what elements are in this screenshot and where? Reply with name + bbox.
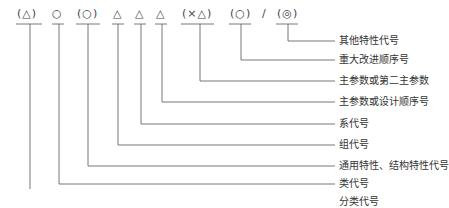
label-feature-code: 通用特性、结构特性代号 [339, 160, 449, 172]
symbol-class: ○ [52, 7, 63, 20]
symbol-group: △ [113, 7, 122, 20]
label-series-code: 系代号 [339, 118, 369, 130]
symbol-main-param: △ [156, 7, 165, 20]
symbol-classification: (△) [17, 7, 37, 20]
label-main-param-design: 主参数或设计顺序号 [339, 96, 429, 108]
label-group-code: 组代号 [339, 139, 369, 151]
symbol-other: (◎) [277, 7, 298, 20]
label-other-feature: 其他特性代号 [339, 35, 399, 47]
label-main-param-second: 主参数或第二主参数 [339, 75, 429, 87]
symbol-series: △ [135, 7, 144, 20]
symbol-slash: / [262, 7, 267, 20]
symbol-second-param: (×△) [182, 7, 212, 20]
label-class-code: 类代号 [339, 178, 369, 190]
label-classification-code: 分类代号 [339, 196, 379, 208]
symbol-improvement: (○) [230, 7, 251, 20]
symbol-general-feature: (○) [77, 7, 98, 20]
label-major-improvement: 重大改进顺序号 [339, 54, 409, 66]
